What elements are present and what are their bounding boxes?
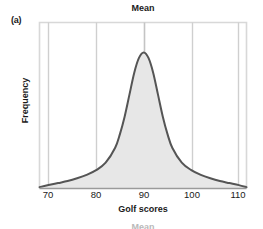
- x-tick-label-110: 110: [218, 190, 258, 200]
- curve-fill-area: [40, 53, 247, 189]
- x-tick-label-100: 100: [172, 190, 212, 200]
- figure-panel-a: (a) Mean Frequency 70 80 90 100 110 Golf…: [0, 0, 263, 229]
- next-panel-ghost-label: Mean: [39, 223, 247, 229]
- x-tick-label-80: 80: [76, 190, 116, 200]
- x-tick-label-70: 70: [28, 190, 68, 200]
- x-tick-label-90: 90: [124, 190, 164, 200]
- x-axis-title: Golf scores: [39, 205, 247, 215]
